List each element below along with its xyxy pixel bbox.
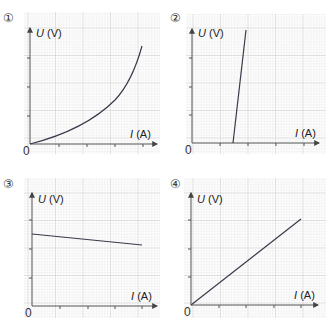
panel-number: ③ — [3, 177, 14, 191]
panel-3: ③ U (V) I (A) 0 — [3, 177, 160, 320]
x-axis-label: I (A) — [130, 128, 151, 140]
y-axis-label: U (V) — [198, 27, 224, 39]
panel-2: ② U (V) I (A) 0 — [170, 11, 326, 157]
panel-4: ④ U (V) I (A) 0 — [170, 177, 326, 319]
y-axis-label: U (V) — [38, 193, 64, 205]
x-axis-label: I (A) — [131, 290, 152, 302]
x-axis-label: I (A) — [295, 127, 316, 139]
y-axis-label: U (V) — [36, 27, 62, 39]
figure: ① U (V) I (A) 0 ② U (V) I (A) 0 ③ — [0, 0, 330, 330]
panel-number: ① — [3, 11, 14, 25]
x-axis-label: I (A) — [294, 289, 315, 301]
panel-number: ② — [170, 11, 181, 25]
y-axis-label: U (V) — [197, 193, 223, 205]
panel-number: ④ — [170, 177, 181, 191]
origin-label: 0 — [23, 144, 30, 158]
panel-1: ① U (V) I (A) 0 — [3, 11, 160, 158]
origin-label: 0 — [185, 143, 192, 157]
origin-label: 0 — [184, 305, 191, 319]
origin-label: 0 — [25, 306, 32, 320]
